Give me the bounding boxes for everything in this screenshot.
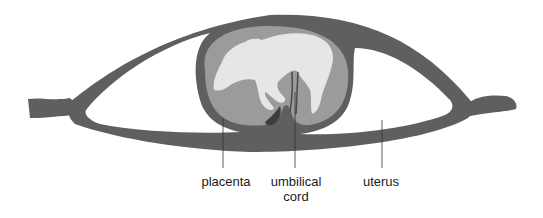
umbilical-cord-label-line2: cord — [266, 189, 326, 204]
placenta-label: placenta — [196, 174, 256, 189]
placenta-label-text: placenta — [201, 174, 250, 189]
uterus-label: uterus — [356, 174, 406, 189]
umbilical-cord-label: umbilical cord — [266, 174, 326, 204]
umbilical-cord-label-line1: umbilical — [266, 174, 326, 189]
uterus-label-text: uterus — [363, 174, 399, 189]
